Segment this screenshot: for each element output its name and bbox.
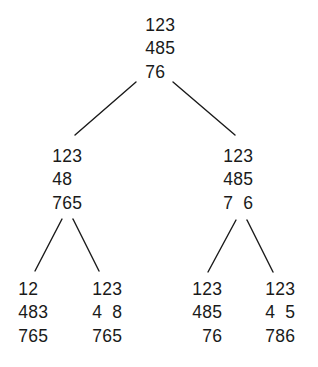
node-left: 1 2 3 4 8 7 6 5 [52, 144, 86, 215]
tile: 1 [265, 279, 275, 299]
tile: 2 [202, 279, 212, 299]
tile: 7 [52, 193, 62, 213]
tile: 6 [155, 62, 165, 82]
tile: 8 [62, 169, 72, 189]
tile: 4 [18, 302, 28, 322]
tile: 8 [275, 326, 285, 346]
node-row: 7 8 6 [265, 324, 299, 348]
node-row: 4 8 5 [145, 37, 179, 61]
tile: 5 [72, 193, 82, 213]
tile: 3 [165, 15, 175, 35]
node-row: 4 8 5 [223, 168, 257, 192]
tile: 3 [285, 279, 295, 299]
tile: 3 [72, 146, 82, 166]
node-row: 7 6 [145, 60, 179, 84]
tile: 8 [202, 302, 212, 322]
tile: 2 [102, 279, 112, 299]
tile: 2 [233, 146, 243, 166]
edge-right-rightright [247, 220, 273, 272]
tile: 8 [233, 169, 243, 189]
node-row: 1 2 [18, 277, 52, 301]
tile: 6 [243, 193, 253, 213]
tile: 3 [212, 279, 222, 299]
tile: 8 [155, 38, 165, 58]
node-left-left: 1 2 4 8 3 7 6 5 [18, 277, 52, 348]
tile: 5 [38, 326, 48, 346]
node-row: 1 2 3 [145, 13, 179, 37]
tile: 6 [28, 326, 38, 346]
node-row: 1 2 3 [223, 144, 257, 168]
tile: 7 [92, 326, 102, 346]
tile: 2 [155, 15, 165, 35]
tile: 4 [192, 302, 202, 322]
node-row: 7 6 5 [18, 324, 52, 348]
edge-left-leftleft [35, 219, 62, 271]
edge-right-rightleft [208, 220, 236, 272]
node-row: 1 2 3 [92, 277, 126, 301]
tile: 1 [18, 279, 28, 299]
tile: 6 [62, 193, 72, 213]
tile: 1 [145, 15, 155, 35]
node-row: 4 8 [52, 168, 86, 192]
node-row: 4 8 3 [18, 301, 52, 325]
node-row: 4 5 [265, 301, 299, 325]
edge-left-leftright [73, 219, 99, 271]
tile: 7 [202, 326, 212, 346]
node-right-right: 1 2 3 4 5 7 8 6 [265, 277, 299, 348]
tile: 4 [223, 169, 233, 189]
tile: 3 [112, 279, 122, 299]
tile: 3 [243, 146, 253, 166]
tile: 1 [223, 146, 233, 166]
tile: 6 [212, 326, 222, 346]
node-row: 7 6 [223, 191, 257, 215]
node-row: 1 2 3 [192, 277, 226, 301]
tile: 5 [165, 38, 175, 58]
node-right-left: 1 2 3 4 8 5 7 6 [192, 277, 226, 348]
tile: 5 [212, 302, 222, 322]
tile: 4 [92, 302, 102, 322]
edge-root-left [75, 82, 136, 135]
tile: 4 [265, 302, 275, 322]
tile: 5 [285, 302, 295, 322]
tile: 1 [192, 279, 202, 299]
tile: 2 [28, 279, 38, 299]
node-row: 1 2 3 [52, 144, 86, 168]
tile: 4 [145, 38, 155, 58]
node-row: 4 8 [92, 301, 126, 325]
node-row: 7 6 5 [92, 324, 126, 348]
node-row: 7 6 5 [52, 191, 86, 215]
tile: 7 [18, 326, 28, 346]
tile: 6 [102, 326, 112, 346]
tile: 2 [62, 146, 72, 166]
tile: 5 [112, 326, 122, 346]
tile: 8 [28, 302, 38, 322]
node-row: 7 6 [192, 324, 226, 348]
edge-root-right [173, 82, 235, 135]
tile: 4 [52, 169, 62, 189]
tile: 7 [145, 62, 155, 82]
node-row: 4 8 5 [192, 301, 226, 325]
node-root: 1 2 3 4 8 5 7 6 [145, 13, 179, 84]
tile: 7 [265, 326, 275, 346]
tile: 2 [275, 279, 285, 299]
tile: 8 [112, 302, 122, 322]
tile: 5 [243, 169, 253, 189]
tile: 3 [38, 302, 48, 322]
tile: 7 [223, 193, 233, 213]
tile: 1 [52, 146, 62, 166]
node-row: 1 2 3 [265, 277, 299, 301]
node-left-right: 1 2 3 4 8 7 6 5 [92, 277, 126, 348]
node-right: 1 2 3 4 8 5 7 6 [223, 144, 257, 215]
tile: 6 [285, 326, 295, 346]
tile: 1 [92, 279, 102, 299]
